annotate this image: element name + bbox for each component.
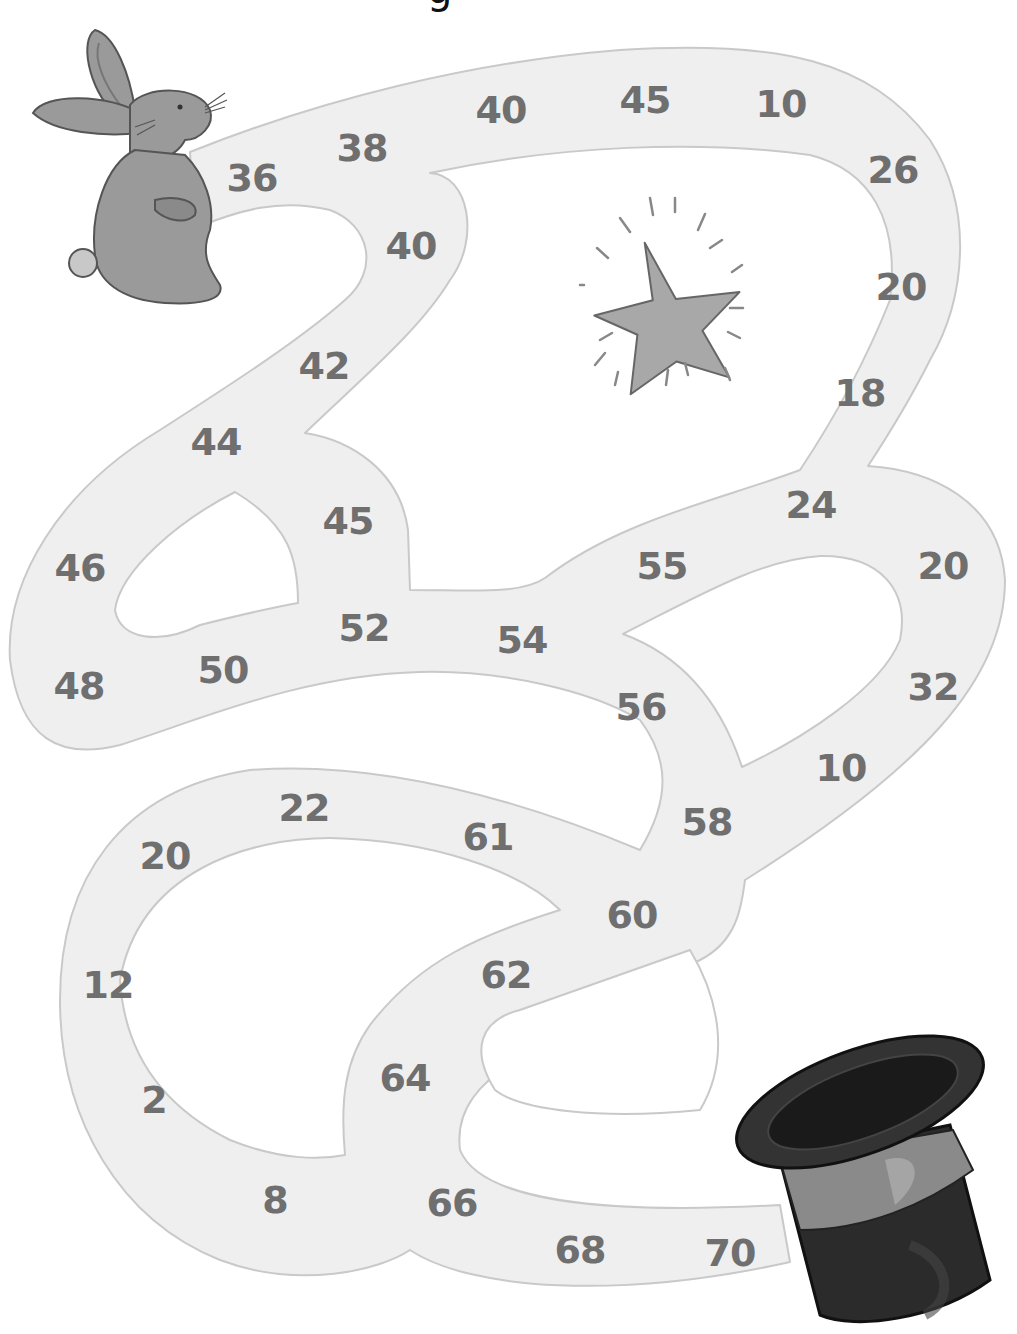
maze-cell[interactable]: 62: [481, 956, 532, 994]
maze-cell[interactable]: 55: [637, 547, 688, 585]
maze-cell[interactable]: 36: [227, 159, 278, 197]
maze-cell[interactable]: 58: [682, 803, 733, 841]
maze-cell[interactable]: 52: [339, 609, 390, 647]
maze-cell[interactable]: 26: [868, 151, 919, 189]
maze-cell[interactable]: 54: [497, 621, 548, 659]
maze-cell[interactable]: 38: [337, 129, 388, 167]
maze-cell[interactable]: 8: [262, 1181, 287, 1219]
maze-cell[interactable]: 20: [140, 837, 191, 875]
maze-cell[interactable]: 10: [756, 85, 807, 123]
maze-cell[interactable]: 2: [141, 1081, 166, 1119]
maze-cell[interactable]: 48: [54, 667, 105, 705]
maze-cell[interactable]: 45: [323, 502, 374, 540]
maze-cell[interactable]: 70: [705, 1234, 756, 1272]
maze-cell[interactable]: 24: [786, 486, 837, 524]
sparkling-star-icon: [560, 190, 780, 400]
maze-cell[interactable]: 40: [476, 91, 527, 129]
maze-cell[interactable]: 12: [83, 966, 134, 1004]
maze-cell[interactable]: 40: [386, 227, 437, 265]
rabbit-start-icon: [25, 15, 240, 315]
maze-cell[interactable]: 22: [279, 789, 330, 827]
maze-cell[interactable]: 68: [555, 1231, 606, 1269]
maze-cell[interactable]: 64: [380, 1059, 431, 1097]
maze-cell[interactable]: 18: [835, 374, 886, 412]
maze-cell[interactable]: 10: [816, 749, 867, 787]
maze-cell[interactable]: 44: [191, 423, 242, 461]
maze-cell[interactable]: 61: [463, 818, 514, 856]
maze-cell[interactable]: 56: [616, 688, 667, 726]
maze-cell[interactable]: 46: [55, 549, 106, 587]
maze-cell[interactable]: 20: [876, 268, 927, 306]
maze-cell[interactable]: 66: [427, 1184, 478, 1222]
top-hat-finish-icon: [725, 1030, 1015, 1330]
maze-cell[interactable]: 45: [620, 81, 671, 119]
maze-cell[interactable]: 50: [198, 651, 249, 689]
maze-cell[interactable]: 42: [299, 347, 350, 385]
maze-cell[interactable]: 32: [908, 668, 959, 706]
maze-cell[interactable]: 20: [918, 547, 969, 585]
maze-cell[interactable]: 60: [607, 896, 658, 934]
